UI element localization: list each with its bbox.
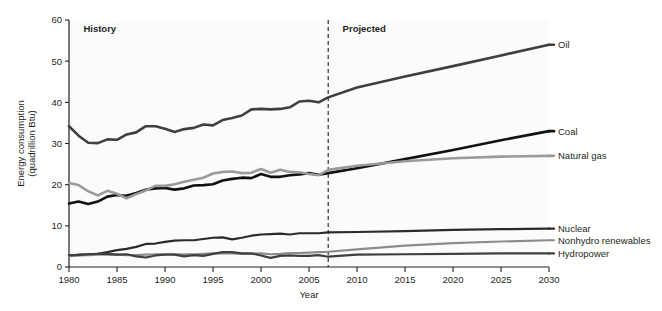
x-axis-tick-label: 2015 bbox=[394, 274, 415, 285]
series-label-hydropower: Hydropower bbox=[558, 248, 609, 259]
y-axis-title-line2: (quadrillion Btu) bbox=[26, 110, 37, 177]
y-axis-tick-label: 40 bbox=[51, 97, 62, 108]
x-axis-tick-label: 2000 bbox=[250, 274, 271, 285]
energy-consumption-line-chart: 0102030405060198019851990199520002005201… bbox=[0, 0, 662, 311]
y-axis-tick-label: 50 bbox=[51, 56, 62, 67]
series-label-nuclear: Nuclear bbox=[558, 223, 591, 234]
x-axis-tick-label: 2005 bbox=[298, 274, 319, 285]
series-label-oil: Oil bbox=[558, 39, 570, 50]
y-axis-tick-label: 20 bbox=[51, 179, 62, 190]
x-axis-tick-label: 1995 bbox=[202, 274, 223, 285]
x-axis-tick-label: 1985 bbox=[106, 274, 127, 285]
x-axis-tick-label: 2010 bbox=[346, 274, 367, 285]
series-label-coal: Coal bbox=[558, 126, 578, 137]
y-axis-tick-label: 0 bbox=[57, 261, 62, 272]
x-axis-tick-label: 2030 bbox=[538, 274, 559, 285]
y-axis-tick-label: 30 bbox=[51, 138, 62, 149]
annotation-history: History bbox=[83, 23, 116, 34]
y-axis-title-line1: Energy consumption bbox=[15, 100, 26, 187]
x-axis-tick-label: 2020 bbox=[442, 274, 463, 285]
series-label-nonhydro-renewables: Nonhydro renewables bbox=[558, 235, 651, 246]
x-axis-tick-label: 1980 bbox=[58, 274, 79, 285]
x-axis-tick-label: 2025 bbox=[490, 274, 511, 285]
series-label-natural-gas: Natural gas bbox=[558, 150, 607, 161]
annotation-projected: Projected bbox=[343, 23, 386, 34]
y-axis-tick-label: 10 bbox=[51, 220, 62, 231]
x-axis-tick-label: 1990 bbox=[154, 274, 175, 285]
x-axis-title: Year bbox=[299, 289, 318, 300]
y-axis-title: Energy consumption(quadrillion Btu) bbox=[15, 100, 37, 187]
y-axis-tick-label: 60 bbox=[51, 14, 62, 25]
